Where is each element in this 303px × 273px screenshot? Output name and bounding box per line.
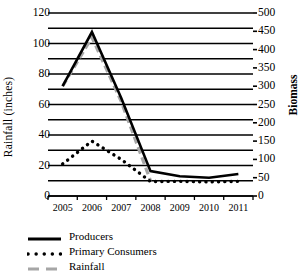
legend-item: Primary Consumers (27, 243, 257, 258)
legend-label: Primary Consumers (69, 245, 157, 257)
legend-swatch-icon (27, 230, 62, 241)
series-line-primary-consumers (63, 141, 239, 182)
legend-item: Rainfall (27, 258, 257, 273)
chart-legend: ProducersPrimary ConsumersRainfall (27, 228, 257, 273)
legend-swatch-icon (27, 260, 62, 271)
legend-label: Producers (69, 230, 113, 242)
legend-label: Rainfall (69, 260, 104, 272)
rainfall-biomass-line-chart: Rainfall (inches) Biomass 12010080604020… (0, 0, 303, 273)
data-series-layer (63, 32, 239, 182)
legend-item: Producers (27, 228, 257, 243)
legend-swatch-icon (27, 245, 62, 256)
